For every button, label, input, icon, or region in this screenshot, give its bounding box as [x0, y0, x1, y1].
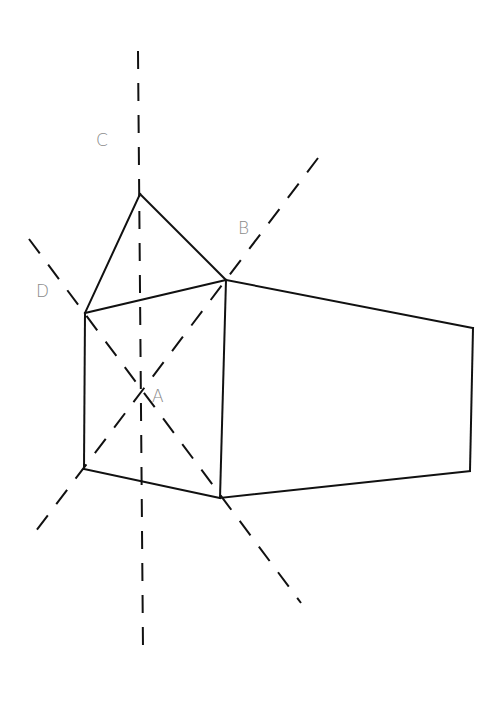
apex-to-front-top-left: [85, 194, 140, 313]
point-labels: A B C D: [36, 130, 249, 406]
front-left: [84, 313, 85, 469]
axis-B-diagonal: [36, 158, 318, 531]
side-back: [470, 328, 473, 471]
label-A: A: [152, 386, 164, 406]
perspective-diagram: A B C D: [0, 0, 498, 702]
front-top: [85, 280, 226, 313]
dashed-axes: [29, 51, 318, 648]
apex-to-front-top-right: [140, 194, 226, 280]
label-C: C: [96, 130, 108, 150]
side-bottom: [220, 471, 470, 498]
front-right: [220, 280, 226, 498]
label-D: D: [36, 281, 49, 301]
side-top: [226, 280, 473, 328]
front-bottom: [84, 469, 220, 498]
label-B: B: [238, 218, 249, 238]
axis-C-vertical: [138, 51, 143, 648]
